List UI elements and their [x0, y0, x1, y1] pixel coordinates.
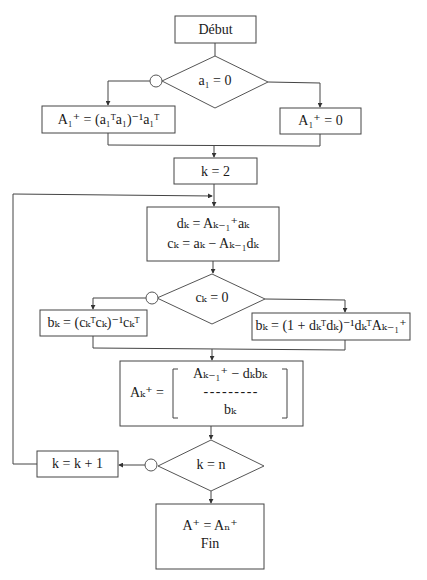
- compute-d-label: dₖ = Aₖ₋₁⁺aₖ: [147, 216, 279, 232]
- false-branch-circle: [150, 75, 162, 87]
- cond-ck-label: cₖ = 0: [172, 290, 252, 306]
- update-a-lhs: Aₖ⁺ =: [124, 385, 170, 401]
- edge-merge-init: [108, 133, 320, 146]
- edge-cond-a1-init-zero: [268, 82, 320, 107]
- init-nonzero-label: A₁⁺ = (a₁ᵀa₁)⁻¹a₁ᵀ: [42, 112, 175, 128]
- increment-k-label: k = k + 1: [37, 456, 118, 472]
- cond-kn-label: k = n: [171, 457, 251, 473]
- start-label: Début: [175, 22, 256, 38]
- edge-cond-ck-bk-zero: [265, 299, 345, 312]
- end-result-label: A⁺ = Aₙ⁺: [156, 518, 264, 534]
- false-branch-circle: [146, 292, 158, 304]
- init-zero-label: A₁⁺ = 0: [280, 113, 361, 129]
- update-a-separator: - - - - - - - - -: [178, 384, 282, 400]
- end-fin-label: Fin: [156, 536, 264, 552]
- update-a-top: Aₖ₋₁⁺ − dₖbₖ: [178, 366, 282, 382]
- cond-a1-label: a₁ = 0: [175, 73, 255, 89]
- compute-c-label: cₖ = aₖ − Aₖ₋₁dₖ: [147, 236, 279, 252]
- set-k-label: k = 2: [174, 164, 257, 180]
- bk-nonzero-label: bₖ = (cₖᵀcₖ)⁻¹cₖᵀ: [40, 315, 147, 331]
- edge-cond-a1-init-nonzero: [108, 81, 150, 105]
- update-a-bottom: bₖ: [178, 402, 282, 418]
- false-branch-circle: [145, 459, 157, 471]
- edge-cond-ck-bk-nonzero: [93, 298, 146, 309]
- bk-zero-label: bₖ = (1 + dₖᵀdₖ)⁻¹dₖᵀAₖ₋₁⁺: [252, 318, 410, 334]
